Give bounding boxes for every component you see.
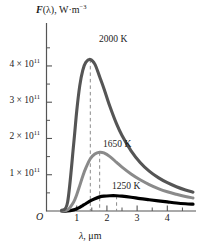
x-tick-label-2: 2 <box>100 213 114 223</box>
label-2000k: 2000 K <box>99 35 127 45</box>
y-tick-label-1: 1 × 1011 <box>0 169 40 179</box>
x-tick-label-4: 4 <box>160 213 174 223</box>
x-tick-label-1: 1 <box>70 213 84 223</box>
label-1650k: 1650 K <box>103 140 131 150</box>
y-tick-label-3: 3 × 1011 <box>0 96 40 106</box>
label-1250k: 1250 K <box>112 182 140 192</box>
curve-1250-k <box>62 196 193 211</box>
x-tick-label-3: 3 <box>130 213 144 223</box>
blackbody-spectral-chart: F(λ), W·m−3 λ, μm 1 × 10112 × 10113 × 10… <box>0 0 198 249</box>
y-tick-label-4: 4 × 1011 <box>0 60 40 70</box>
origin-label: O <box>36 212 43 222</box>
y-tick-label-2: 2 × 1011 <box>0 132 40 142</box>
